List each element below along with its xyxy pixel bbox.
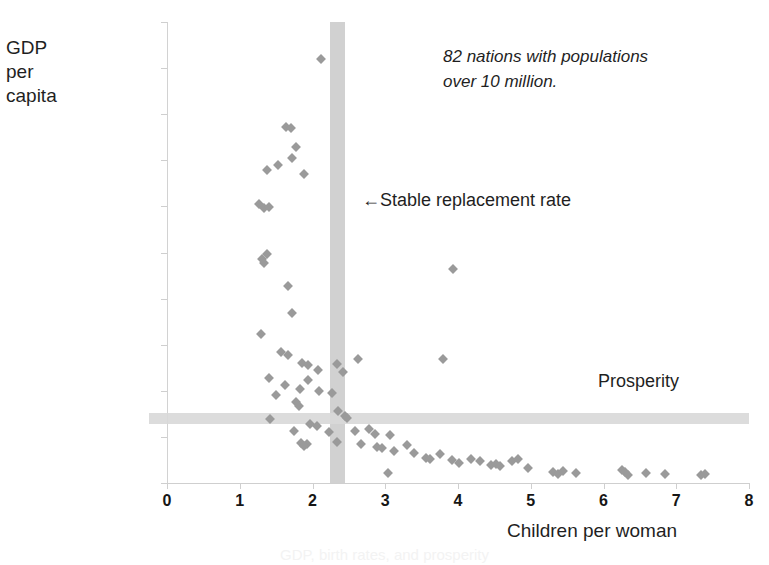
data-point <box>455 458 465 468</box>
prosperity-note: Prosperity <box>598 371 679 392</box>
data-point <box>475 456 485 466</box>
y-axis-tick <box>161 68 167 69</box>
data-point <box>353 354 363 364</box>
x-axis-tick <box>458 483 459 489</box>
x-axis-tick-label: 6 <box>599 492 608 510</box>
y-axis-tick <box>161 206 167 207</box>
data-point <box>262 165 272 175</box>
data-point <box>402 440 412 450</box>
data-point <box>271 390 281 400</box>
x-axis-tick-label: 8 <box>745 492 754 510</box>
x-axis-tick <box>167 483 168 489</box>
data-point <box>523 463 533 473</box>
data-point <box>303 375 313 385</box>
x-axis-tick <box>240 483 241 489</box>
data-point <box>264 373 274 383</box>
y-axis-title: GDP per capita <box>6 36 92 108</box>
data-point <box>370 429 380 439</box>
data-point <box>389 446 399 456</box>
x-axis-tick-label: 4 <box>454 492 463 510</box>
data-point <box>641 468 651 478</box>
data-point <box>260 258 270 268</box>
data-point <box>287 153 297 163</box>
data-point <box>571 468 581 478</box>
y-axis-tick <box>161 345 167 346</box>
data-point <box>303 360 313 370</box>
data-point <box>273 160 283 170</box>
x-axis-tick <box>676 483 677 489</box>
replacement-rate-note: ←Stable replacement rate <box>362 190 571 211</box>
figure-caption: GDP, birth rates, and prosperity <box>0 546 769 563</box>
data-point <box>289 426 299 436</box>
data-point <box>435 449 445 459</box>
y-axis-tick <box>161 253 167 254</box>
prosperity-threshold-band <box>149 413 749 424</box>
y-axis-tick <box>161 160 167 161</box>
x-axis-tick <box>313 483 314 489</box>
data-point <box>299 169 309 179</box>
x-axis-title: Children per woman <box>507 520 677 542</box>
data-point <box>287 308 297 318</box>
data-point <box>385 430 395 440</box>
data-point <box>495 461 505 471</box>
data-point <box>409 448 419 458</box>
data-point <box>356 439 366 449</box>
data-point <box>448 264 458 274</box>
x-axis-tick <box>749 483 750 489</box>
x-axis-tick <box>604 483 605 489</box>
x-axis-tick-label: 5 <box>526 492 535 510</box>
data-point <box>283 281 293 291</box>
x-axis-tick <box>385 483 386 489</box>
data-point <box>660 469 670 479</box>
x-axis-tick-label: 2 <box>308 492 317 510</box>
chart-page: GDP per capita $0$5,000$10,000$15,000$20… <box>0 0 769 565</box>
x-axis-tick-label: 7 <box>672 492 681 510</box>
x-axis-tick-label: 3 <box>381 492 390 510</box>
y-axis-tick <box>161 22 167 23</box>
data-point <box>425 454 435 464</box>
data-point <box>314 386 324 396</box>
x-axis-tick-label: 1 <box>235 492 244 510</box>
data-point <box>466 454 476 464</box>
y-axis-tick <box>161 114 167 115</box>
y-axis-tick <box>161 391 167 392</box>
data-point <box>292 142 302 152</box>
data-point <box>316 54 326 64</box>
data-point <box>295 384 305 394</box>
data-point <box>350 426 360 436</box>
data-point <box>280 380 290 390</box>
x-axis-tick <box>531 483 532 489</box>
y-axis-tick <box>161 299 167 300</box>
data-point <box>438 354 448 364</box>
data-point <box>313 365 323 375</box>
y-axis-tick <box>161 437 167 438</box>
data-point <box>256 329 266 339</box>
nations-note: 82 nations with populations over 10 mill… <box>443 44 648 94</box>
x-axis-tick-label: 0 <box>163 492 172 510</box>
data-point <box>383 468 393 478</box>
